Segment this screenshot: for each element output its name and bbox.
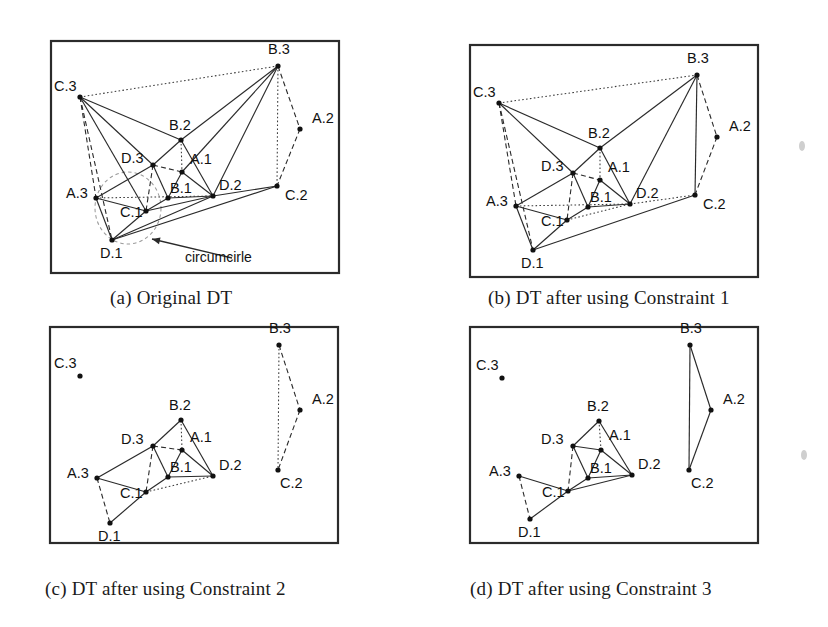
node-label-D2: D.2 xyxy=(219,177,242,193)
node-label-C2: C.2 xyxy=(691,475,714,491)
node-label-C1: C.1 xyxy=(120,485,143,501)
node-point-B2[interactable] xyxy=(178,417,183,422)
node-point-C3[interactable] xyxy=(77,373,82,378)
node-point-A3[interactable] xyxy=(93,195,98,200)
node-label-B2: B.2 xyxy=(169,397,191,413)
node-label-B3: B.3 xyxy=(269,320,291,336)
node-label-A1: A.1 xyxy=(608,159,630,175)
node-label-A1: A.1 xyxy=(190,429,212,445)
node-point-A3[interactable] xyxy=(94,475,99,480)
node-label-C3: C.3 xyxy=(473,84,496,100)
node-label-B2: B.2 xyxy=(169,117,191,133)
panel-caption-a: (a) Original DT xyxy=(110,287,232,309)
node-label-B2: B.2 xyxy=(588,125,610,141)
node-label-B1: B.1 xyxy=(590,189,612,205)
panel-b: C.3B.3A.2B.2A.1D.3B.1D.2C.2A.3C.1D.1 xyxy=(470,45,758,277)
panel-caption-b: (b) DT after using Constraint 1 xyxy=(488,287,730,309)
node-point-B1[interactable] xyxy=(165,474,170,479)
node-point-D1[interactable] xyxy=(109,237,114,242)
node-point-C3[interactable] xyxy=(496,100,501,105)
node-label-A2: A.2 xyxy=(312,391,334,407)
node-label-B2: B.2 xyxy=(587,398,609,414)
node-point-D2[interactable] xyxy=(627,201,632,206)
node-label-B1: B.1 xyxy=(170,459,192,475)
node-label-D3: D.3 xyxy=(541,431,564,447)
node-label-C3: C.3 xyxy=(476,357,499,373)
node-label-C1: C.1 xyxy=(541,213,564,229)
node-label-A3: A.3 xyxy=(67,465,89,481)
node-label-A2: A.2 xyxy=(723,391,745,407)
node-point-B3[interactable] xyxy=(687,342,692,347)
node-label-B3: B.3 xyxy=(268,41,290,57)
node-point-C3[interactable] xyxy=(499,375,504,380)
node-point-D3[interactable] xyxy=(570,170,575,175)
node-point-A1[interactable] xyxy=(179,169,184,174)
node-point-C2[interactable] xyxy=(686,467,691,472)
node-point-D1[interactable] xyxy=(530,247,535,252)
node-label-B1: B.1 xyxy=(170,180,192,196)
figure-root: circumcirleC.3B.3A.2B.2A.1D.3B.1D.2C.2A.… xyxy=(0,0,828,627)
panel-c: C.3B.3A.2B.2A.1D.3B.1D.2C.2A.3C.1D.1 xyxy=(50,320,338,544)
node-point-B1[interactable] xyxy=(585,204,590,209)
node-label-A3: A.3 xyxy=(489,463,511,479)
node-point-C3[interactable] xyxy=(77,94,82,99)
panel-d: C.3B.3A.2B.2A.1D.3B.1D.2C.2A.3C.1D.1 xyxy=(470,320,758,543)
node-label-D1: D.1 xyxy=(521,255,544,271)
node-point-C2[interactable] xyxy=(692,192,697,197)
panel-a: circumcirleC.3B.3A.2B.2A.1D.3B.1D.2C.2A.… xyxy=(51,41,339,273)
node-label-C1: C.1 xyxy=(542,484,565,500)
node-label-B3: B.3 xyxy=(680,320,702,336)
node-point-B3[interactable] xyxy=(276,342,281,347)
node-label-C3: C.3 xyxy=(54,355,77,371)
node-label-D3: D.3 xyxy=(121,431,144,447)
node-point-B1[interactable] xyxy=(585,475,590,480)
node-point-A2[interactable] xyxy=(714,134,719,139)
node-point-A3[interactable] xyxy=(516,473,521,478)
node-point-D3[interactable] xyxy=(150,162,155,167)
node-point-C2[interactable] xyxy=(274,183,279,188)
node-label-A2: A.2 xyxy=(729,118,751,134)
node-point-C1[interactable] xyxy=(564,217,569,222)
node-point-C1[interactable] xyxy=(143,489,148,494)
node-point-D2[interactable] xyxy=(210,193,215,198)
node-label-D1: D.1 xyxy=(518,524,541,540)
node-label-C3: C.3 xyxy=(54,78,77,94)
node-point-A1[interactable] xyxy=(598,447,603,452)
node-point-D2[interactable] xyxy=(629,472,634,477)
node-point-A2[interactable] xyxy=(708,407,713,412)
node-point-D3[interactable] xyxy=(150,443,155,448)
node-label-D1: D.1 xyxy=(98,528,121,544)
node-point-D1[interactable] xyxy=(107,520,112,525)
node-point-C1[interactable] xyxy=(143,208,148,213)
node-point-D2[interactable] xyxy=(210,473,215,478)
paper-speck-1 xyxy=(801,450,807,460)
node-point-B1[interactable] xyxy=(165,195,170,200)
panel-caption-c: (c) DT after using Constraint 2 xyxy=(45,578,286,600)
node-point-D3[interactable] xyxy=(570,443,575,448)
panel-caption-d: (d) DT after using Constraint 3 xyxy=(470,578,712,600)
node-point-A3[interactable] xyxy=(513,203,518,208)
delaunay-triangulation-diagram: circumcirleC.3B.3A.2B.2A.1D.3B.1D.2C.2A.… xyxy=(0,0,828,627)
node-point-A1[interactable] xyxy=(597,177,602,182)
node-label-A1: A.1 xyxy=(609,427,631,443)
node-label-D1: D.1 xyxy=(100,245,123,261)
node-label-A2: A.2 xyxy=(312,110,334,126)
node-point-B2[interactable] xyxy=(597,145,602,150)
node-point-C2[interactable] xyxy=(275,467,280,472)
node-point-B2[interactable] xyxy=(596,418,601,423)
node-label-D2: D.2 xyxy=(219,457,242,473)
node-label-A3: A.3 xyxy=(486,193,508,209)
node-label-B3: B.3 xyxy=(687,50,709,66)
node-label-C2: C.2 xyxy=(280,475,303,491)
node-point-B3[interactable] xyxy=(275,63,280,68)
annotation-label-circumcircle: circumcirle xyxy=(185,249,252,265)
node-point-D1[interactable] xyxy=(527,516,532,521)
node-point-A2[interactable] xyxy=(297,407,302,412)
node-point-A2[interactable] xyxy=(297,126,302,131)
node-point-A1[interactable] xyxy=(179,447,184,452)
node-point-B3[interactable] xyxy=(694,72,699,77)
node-label-A3: A.3 xyxy=(66,185,88,201)
node-point-C1[interactable] xyxy=(565,488,570,493)
node-label-C1: C.1 xyxy=(120,204,143,220)
node-point-B2[interactable] xyxy=(178,137,183,142)
